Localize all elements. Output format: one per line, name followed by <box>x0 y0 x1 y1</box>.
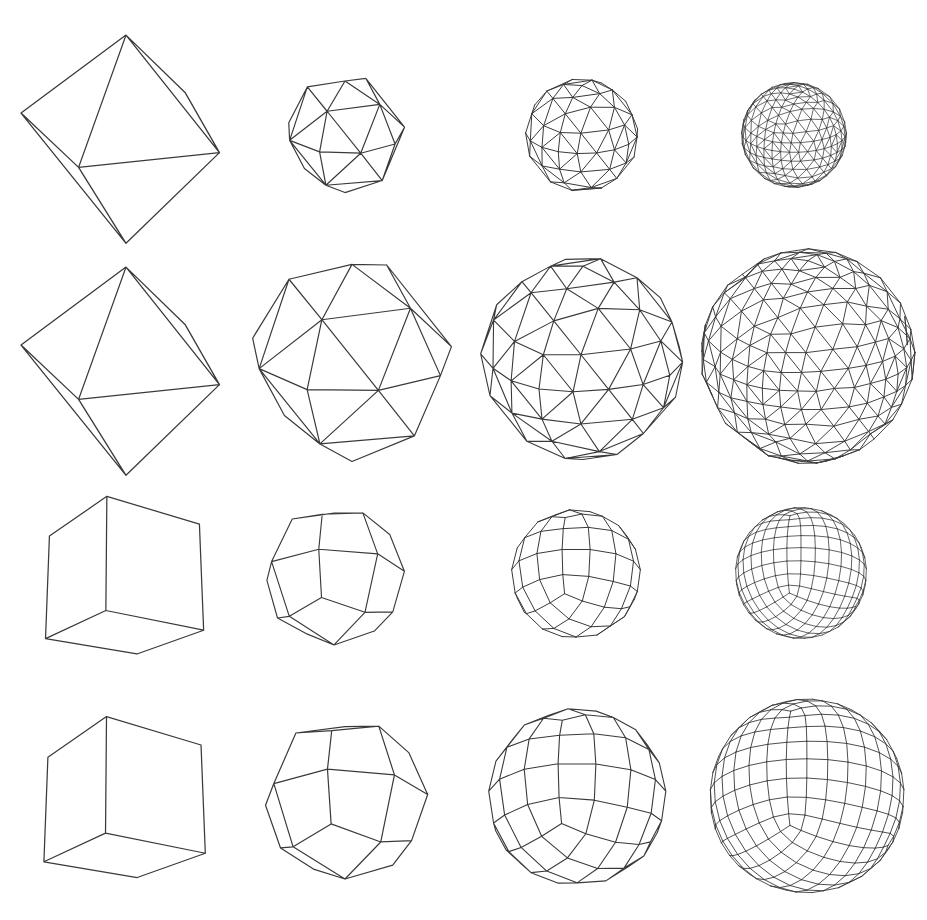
octahedron-level-3-angular <box>692 242 924 470</box>
octahedron-level-0-edges <box>21 35 219 243</box>
cube-level-2-angular <box>466 694 688 900</box>
cube-level-0-edges <box>46 496 204 654</box>
cube-level-3-sphere <box>730 502 872 644</box>
octahedron-level-3-sphere <box>738 80 850 190</box>
octahedron-level-3-sphere-wireframe <box>738 80 850 190</box>
cube-level-1-angular <box>238 700 452 900</box>
cube-level-1-angular-edges <box>266 726 428 879</box>
octahedron-level-2-angular-wireframe <box>470 250 696 466</box>
octahedron-level-2-sphere-edges <box>526 80 638 191</box>
octahedron-level-1-angular-edges <box>253 264 452 461</box>
cube-level-3-angular-edges <box>710 699 903 892</box>
cube-level-2-angular-edges <box>489 709 666 883</box>
cube-level-2-sphere-edges <box>512 510 641 637</box>
octahedron-level-2-sphere <box>520 76 644 194</box>
octahedron-level-3-sphere-edges <box>742 83 847 188</box>
cube-level-0-angular <box>16 710 230 896</box>
octahedron-level-3-angular-wireframe <box>692 242 924 470</box>
octahedron-level-1-angular <box>238 248 466 468</box>
cube-level-1-sphere <box>258 500 410 652</box>
cube-level-3-angular <box>694 690 920 902</box>
cube-level-3-sphere-edges <box>736 508 867 639</box>
octahedron-level-0-angular <box>8 248 244 484</box>
octahedron-level-3-angular-edges <box>702 249 915 464</box>
octahedron-level-1-angular-wireframe <box>238 248 466 468</box>
cube-level-2-sphere <box>506 504 646 644</box>
subdivision-figure <box>0 0 927 920</box>
cube-level-0-angular-wireframe <box>16 710 230 896</box>
cube-level-0-wireframe <box>16 490 230 672</box>
cube-level-3-angular-wireframe <box>694 690 920 902</box>
cube-level-1-sphere-wireframe <box>258 500 410 652</box>
octahedron-level-2-sphere-wireframe <box>520 76 644 194</box>
octahedron-level-0-wireframe <box>8 16 244 252</box>
cube-level-3-sphere-wireframe <box>730 502 872 644</box>
octahedron-level-2-angular-edges <box>481 259 683 460</box>
cube-level-1-angular-wireframe <box>238 700 452 900</box>
octahedron-level-0-angular-wireframe <box>8 248 244 484</box>
octahedron-level-2-angular <box>470 250 696 466</box>
octahedron-level-1-sphere-wireframe <box>275 72 415 196</box>
cube-level-0 <box>16 490 230 672</box>
cube-level-1-sphere-edges <box>267 513 405 645</box>
cube-level-2-angular-wireframe <box>466 694 688 900</box>
cube-level-0-angular-edges <box>44 717 205 878</box>
octahedron-level-0-angular-edges <box>21 267 219 475</box>
octahedron-level-0 <box>8 16 244 252</box>
octahedron-level-1-sphere-edges <box>289 78 405 192</box>
octahedron-level-1-sphere <box>275 72 415 196</box>
cube-level-2-sphere-wireframe <box>506 504 646 644</box>
